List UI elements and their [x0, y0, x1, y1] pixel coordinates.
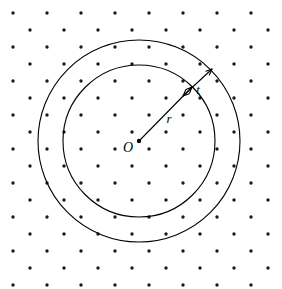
- grid-dot: [147, 181, 150, 184]
- grid-dot: [79, 283, 82, 286]
- grid-dot: [11, 79, 14, 82]
- grid-dot: [45, 79, 48, 82]
- grid-dot: [249, 249, 252, 252]
- grid-dot: [181, 249, 184, 252]
- grid-dot: [198, 28, 201, 31]
- grid-dot: [147, 249, 150, 252]
- grid-dot: [113, 283, 116, 286]
- grid-dot: [147, 283, 150, 286]
- grid-dot: [215, 45, 218, 48]
- grid-dot: [198, 164, 201, 167]
- grid-dot: [130, 198, 133, 201]
- grid-dot: [266, 28, 269, 31]
- grid-dot: [266, 164, 269, 167]
- grid-dot: [232, 62, 235, 65]
- grid-dot: [232, 232, 235, 235]
- grid-dot: [181, 283, 184, 286]
- grid-dot: [215, 181, 218, 184]
- grid-dot: [164, 164, 167, 167]
- grid-dot: [215, 283, 218, 286]
- grid-dot: [130, 28, 133, 31]
- grid-dot: [62, 96, 65, 99]
- grid-dot: [96, 164, 99, 167]
- grid-dot: [215, 215, 218, 218]
- grid-dot: [45, 113, 48, 116]
- grid-dot: [11, 11, 14, 14]
- grid-dot: [147, 147, 150, 150]
- grid-dot: [266, 266, 269, 269]
- grid-dot: [79, 181, 82, 184]
- grid-dot: [215, 113, 218, 116]
- grid-dot: [79, 113, 82, 116]
- grid-dot: [266, 130, 269, 133]
- grid-dot: [130, 266, 133, 269]
- grid-dot: [130, 232, 133, 235]
- grid-dot: [266, 232, 269, 235]
- grid-dot: [62, 266, 65, 269]
- thickness-label: t: [196, 82, 200, 97]
- grid-dot: [11, 283, 14, 286]
- grid-dot: [79, 249, 82, 252]
- grid-dot: [249, 113, 252, 116]
- annulus-figure: O r t: [0, 0, 282, 289]
- grid-dot: [79, 147, 82, 150]
- grid-dot: [266, 96, 269, 99]
- grid-dot: [113, 147, 116, 150]
- grid-dot: [232, 164, 235, 167]
- figure-canvas: O r t: [0, 0, 282, 289]
- grid-dot: [198, 232, 201, 235]
- grid-dot: [11, 181, 14, 184]
- grid-dot: [113, 45, 116, 48]
- grid-dot: [181, 113, 184, 116]
- grid-dot: [249, 283, 252, 286]
- grid-dot: [249, 45, 252, 48]
- grid-dot: [113, 113, 116, 116]
- grid-dot: [28, 164, 31, 167]
- grid-dot: [62, 62, 65, 65]
- grid-dot: [164, 232, 167, 235]
- grid-dot: [164, 96, 167, 99]
- grid-dot: [266, 62, 269, 65]
- grid-dot: [215, 11, 218, 14]
- grid-dot: [215, 79, 218, 82]
- grid-dot: [62, 198, 65, 201]
- grid-dot: [96, 62, 99, 65]
- grid-dot: [96, 266, 99, 269]
- grid-dot: [28, 130, 31, 133]
- grid-dot: [62, 232, 65, 235]
- grid-dot: [11, 45, 14, 48]
- grid-dot: [79, 11, 82, 14]
- grid-dot: [28, 62, 31, 65]
- grid-dot: [96, 198, 99, 201]
- grid-dot: [181, 181, 184, 184]
- grid-dot: [28, 198, 31, 201]
- grid-dot: [249, 79, 252, 82]
- grid-dot: [62, 28, 65, 31]
- grid-dot: [198, 266, 201, 269]
- grid-dot: [45, 147, 48, 150]
- grid-dot: [130, 130, 133, 133]
- grid-dot: [164, 266, 167, 269]
- grid-dot: [11, 113, 14, 116]
- grid-dot: [249, 147, 252, 150]
- grid-dot: [96, 96, 99, 99]
- grid-dot: [130, 96, 133, 99]
- grid-dot: [198, 198, 201, 201]
- grid-dot: [45, 249, 48, 252]
- grid-dot: [11, 249, 14, 252]
- grid-dot: [164, 198, 167, 201]
- center-label: O: [123, 140, 133, 155]
- grid-dot: [164, 130, 167, 133]
- grid-dot: [249, 181, 252, 184]
- grid-dot: [113, 249, 116, 252]
- grid-dot: [232, 266, 235, 269]
- grid-dot: [181, 11, 184, 14]
- grid-dot: [198, 62, 201, 65]
- grid-dot: [62, 164, 65, 167]
- grid-dot: [45, 11, 48, 14]
- grid-dot: [113, 79, 116, 82]
- grid-dot: [28, 232, 31, 235]
- grid-dot: [113, 181, 116, 184]
- grid-dot: [79, 79, 82, 82]
- grid-dot: [232, 198, 235, 201]
